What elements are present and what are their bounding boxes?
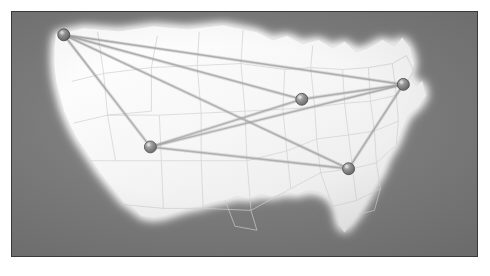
node-specular-highlight [400,81,404,85]
map-panel[interactable] [11,11,478,257]
node-specular-highlight [60,31,64,35]
screenshot-root [0,0,490,276]
map-node-southeast[interactable] [343,163,355,175]
node-sphere[interactable] [296,93,308,105]
node-specular-highlight [298,95,302,99]
map-canvas[interactable] [12,12,477,256]
node-sphere[interactable] [343,163,355,175]
map-node-southwest[interactable] [144,141,156,153]
map-node-pacific-northwest[interactable] [58,29,70,41]
node-sphere[interactable] [58,29,70,41]
node-specular-highlight [147,143,151,147]
node-specular-highlight [345,165,349,169]
map-node-midwest[interactable] [296,93,308,105]
map-node-northeast[interactable] [397,78,409,90]
node-sphere[interactable] [397,78,409,90]
node-sphere[interactable] [144,141,156,153]
